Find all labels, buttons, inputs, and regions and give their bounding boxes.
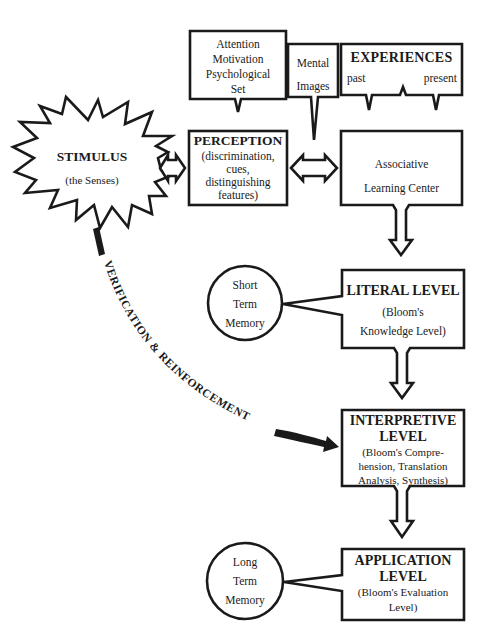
application-title: LEVEL [342, 569, 464, 585]
perception-line: distinguishing [189, 176, 287, 189]
application-level-text: APPLICATION LEVEL (Bloom's Evaluation Le… [342, 553, 464, 615]
feedback-start-bar [93, 227, 105, 256]
feedback-end-arrow [274, 429, 339, 452]
ltm-line: Long [208, 553, 282, 572]
interpretive-title: INTERPRETIVE [342, 413, 464, 429]
attention-line: Motivation [190, 52, 286, 67]
long-term-memory-text: Long Term Memory [208, 553, 282, 610]
ltm-line: Term [208, 572, 282, 591]
perception-line: features) [189, 189, 287, 202]
mental-images-line: Mental [288, 52, 338, 75]
mental-images-line: Images [288, 75, 338, 98]
attention-line: Set [190, 82, 286, 97]
perception-text: PERCEPTION (discrimination, cues, distin… [189, 133, 287, 202]
associative-line: Learning Center [341, 176, 462, 200]
interpretive-line: hension, Translation [342, 459, 464, 473]
associative-line: Associative [341, 152, 462, 176]
interpretive-line: (Bloom's Compre- [342, 445, 464, 459]
perception-title: PERCEPTION [189, 133, 287, 150]
interpretive-title: LEVEL [342, 429, 464, 445]
application-line: (Bloom's Evaluation [342, 585, 464, 600]
perception-associative-arrow [291, 155, 337, 181]
stm-line: Short [208, 276, 282, 295]
experiences-present: present [412, 71, 457, 85]
application-title: APPLICATION [342, 553, 464, 569]
short-term-memory-text: Short Term Memory [208, 276, 282, 333]
perception-line: (discrimination, [189, 150, 287, 163]
experiences-title: EXPERIENCES [341, 49, 462, 67]
interpretive-level-text: INTERPRETIVE LEVEL (Bloom's Compre- hens… [342, 413, 464, 487]
literal-line: Knowledge Level) [342, 322, 464, 341]
stm-line: Memory [208, 314, 282, 333]
stm-line: Term [208, 295, 282, 314]
stimulus-title: STIMULUS [57, 149, 128, 164]
perception-line: cues, [189, 163, 287, 176]
associative-text: Associative Learning Center [341, 152, 462, 200]
literal-title: LITERAL LEVEL [342, 282, 464, 300]
attention-text: Attention Motivation Psychological Set [190, 37, 286, 97]
literal-line: (Bloom's [342, 303, 464, 322]
application-line: Level) [342, 600, 464, 615]
attention-line: Attention [190, 37, 286, 52]
literal-level-text: LITERAL LEVEL (Bloom's Knowledge Level) [342, 282, 464, 341]
ltm-line: Memory [208, 591, 282, 610]
experiences-past: past [347, 71, 366, 85]
interpretive-line: Analysis, Synthesis) [342, 473, 464, 487]
attention-line: Psychological [190, 67, 286, 82]
mental-images-text: Mental Images [288, 52, 338, 98]
stimulus-subtitle: (the Senses) [65, 174, 119, 187]
